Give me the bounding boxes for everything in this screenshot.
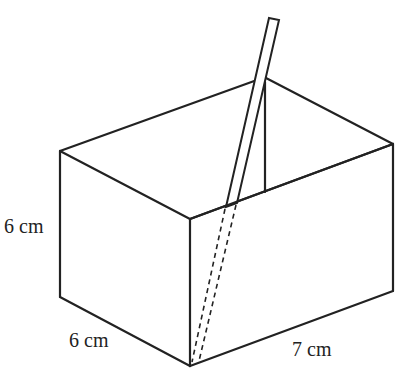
front-left-top-edge bbox=[60, 151, 190, 219]
back-left-top-edge bbox=[60, 80, 257, 151]
straw-hidden-right bbox=[199, 205, 236, 361]
length-label: 7 cm bbox=[292, 338, 332, 360]
back-right-top-edge bbox=[266, 78, 393, 144]
straw-hidden-left bbox=[192, 209, 225, 362]
width-label: 6 cm bbox=[69, 329, 109, 351]
box-diagram: 6 cm 6 cm 7 cm bbox=[0, 0, 399, 368]
front-right-top-edge-overlay bbox=[190, 144, 393, 219]
height-label: 6 cm bbox=[4, 215, 44, 237]
straw bbox=[226, 18, 279, 207]
